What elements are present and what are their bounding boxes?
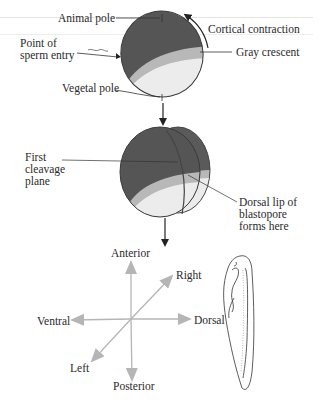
- label-cortical-contraction: Cortical contraction: [208, 23, 300, 35]
- label-vegetal-pole: Vegetal pole: [62, 82, 119, 94]
- label-dorsal-lip-1: Dorsal lip of: [239, 196, 297, 208]
- label-first-cleavage-3: plane: [25, 175, 50, 187]
- label-animal-pole: Animal pole: [58, 12, 115, 24]
- label-right: Right: [176, 269, 202, 281]
- tailbud-embryo-drawing: [224, 256, 254, 390]
- ventral-arrow: [72, 319, 131, 320]
- label-first-cleavage-1: First: [25, 151, 46, 163]
- label-first-cleavage-2: cleavage: [25, 163, 65, 175]
- label-left: Left: [70, 362, 89, 374]
- sperm-entry-leader: [77, 53, 118, 57]
- label-ventral: Ventral: [37, 315, 70, 327]
- right-arrow: [131, 276, 172, 319]
- label-anterior: Anterior: [111, 247, 150, 259]
- fertilized-egg: [110, 3, 220, 110]
- posterior-arrow: [131, 319, 132, 380]
- label-sperm-entry-1: Point of: [20, 37, 57, 49]
- label-posterior: Posterior: [113, 380, 155, 392]
- first-cleavage-egg: [110, 120, 220, 230]
- label-sperm-entry-2: sperm entry: [20, 49, 75, 61]
- label-dorsal-lip-3: forms here: [239, 220, 289, 232]
- body-axes: [72, 262, 190, 380]
- label-dorsal-lip-2: blastopore: [239, 208, 287, 220]
- label-gray-crescent: Gray crescent: [236, 46, 300, 58]
- left-arrow: [92, 319, 131, 361]
- label-dorsal: Dorsal: [194, 314, 225, 326]
